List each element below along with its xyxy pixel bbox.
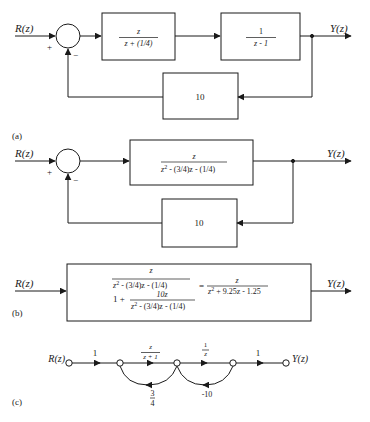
- feedback-path: [237, 161, 293, 223]
- numerator-z: z: [148, 266, 153, 275]
- block2-numerator: 1: [259, 27, 263, 36]
- figure-label-c: (c): [12, 397, 22, 407]
- denominator-prefix: 1 +: [113, 294, 125, 304]
- block-1: [102, 13, 175, 60]
- feedback-path: [238, 36, 312, 97]
- denominator-frac-num: 10z: [156, 290, 168, 299]
- node-input: [66, 360, 72, 366]
- figure-label-b: (b): [12, 308, 23, 318]
- feedback-return: [68, 174, 162, 223]
- input-label: R(z): [14, 22, 34, 35]
- feedback-arc-1: [120, 366, 177, 385]
- closed-loop-block: [67, 264, 311, 321]
- block1-denominator: z + (1/4): [123, 39, 152, 48]
- block-2: [221, 13, 300, 60]
- input-label: R(z): [14, 147, 34, 160]
- summing-junction: [56, 24, 80, 48]
- block1-numerator: z: [136, 27, 141, 36]
- result-denominator: z2 + 9.25z - 1.25: [207, 286, 261, 296]
- block2-denominator: z - 1: [253, 39, 268, 48]
- branch-gain-1: 1: [93, 348, 98, 358]
- output-label: Y(z): [292, 353, 309, 365]
- denominator-frac-den: z2 - (3/4)z - (1/4): [130, 301, 185, 311]
- forward-block: [130, 140, 253, 185]
- node-output: [283, 360, 289, 366]
- input-label: R(z): [47, 353, 65, 365]
- feedback-1-num: 3: [151, 389, 155, 398]
- block-diagram-canvas: R(z) + − z z + (1/4) 1 z - 1 Y(z) 10 (a)…: [0, 0, 370, 422]
- branch-gain-3-num: 1: [204, 341, 208, 349]
- branch-gain-4: 1: [256, 348, 261, 358]
- figure-label-a: (a): [12, 131, 22, 141]
- branch-gain-2-num: z: [148, 343, 152, 351]
- feedback-1-den: 4: [151, 399, 155, 408]
- feedback-2-gain: -10: [202, 390, 213, 399]
- output-label: Y(z): [327, 277, 345, 290]
- minus-sign: −: [73, 50, 78, 60]
- branch-gain-2-den: z + 1: [142, 353, 157, 361]
- diagram-a: [15, 13, 351, 119]
- feedback-arc-2: [177, 366, 233, 385]
- forward-denominator: z2 - (3/4)z - (1/4): [160, 164, 215, 174]
- forward-numerator: z: [191, 152, 196, 161]
- feedback-gain: 10: [196, 92, 206, 102]
- feedback-return: [68, 49, 163, 97]
- node-2: [174, 360, 180, 366]
- node-1: [117, 360, 123, 366]
- equals-sign: =: [199, 281, 204, 291]
- output-label: Y(z): [330, 22, 348, 35]
- diagram-b-loop: [15, 140, 351, 247]
- result-numerator: z: [234, 276, 239, 285]
- feedback-gain: 10: [195, 218, 205, 228]
- diagram-b-reduced: [15, 264, 351, 321]
- node-3: [230, 360, 236, 366]
- summing-junction: [56, 149, 80, 173]
- branch-gain-3-den: z: [203, 350, 207, 358]
- plus-sign: +: [47, 42, 52, 52]
- plus-sign: +: [47, 167, 52, 177]
- input-label: R(z): [14, 277, 34, 290]
- output-label: Y(z): [327, 147, 345, 160]
- minus-sign: −: [73, 175, 78, 185]
- numerator-denominator: z2 - (3/4)z - (1/4): [112, 280, 167, 290]
